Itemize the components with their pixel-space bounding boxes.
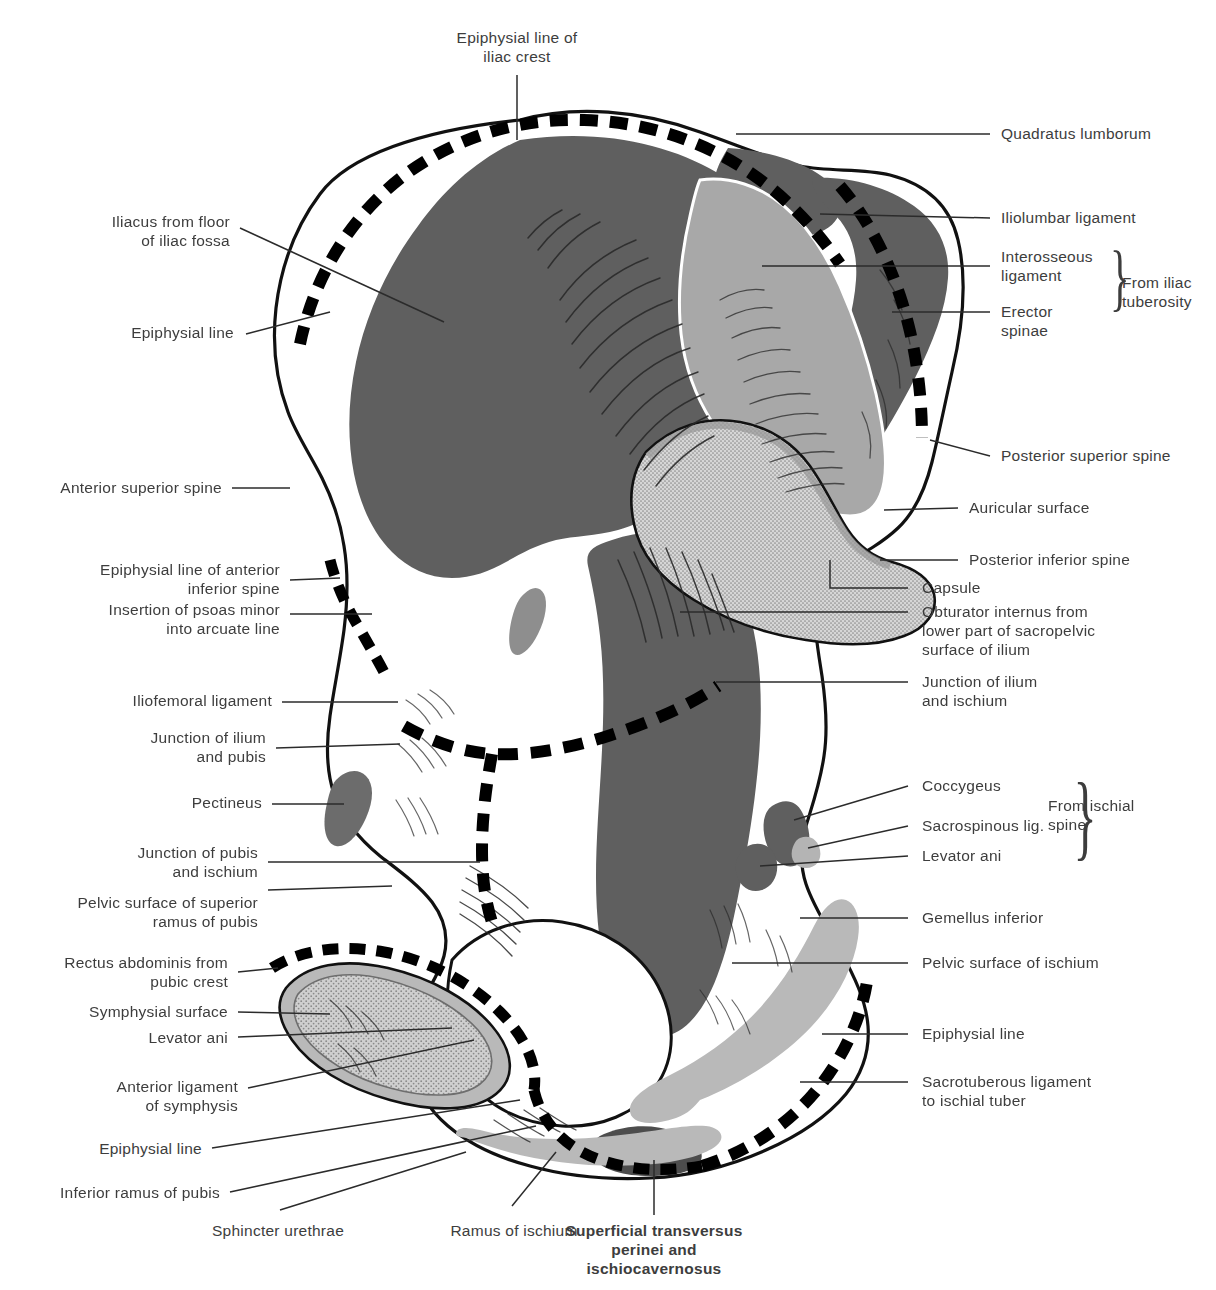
label-from-iliac-tuberosity: From iliac tuberosity: [1122, 273, 1216, 311]
label-epiphysial-line-of-anterior-inferior-spine: Epiphysial line of anterior inferior spi…: [48, 560, 280, 598]
label-junction-of-pubis-and-ischium: Junction of pubis and ischium: [52, 843, 258, 881]
label-pelvic-surface-of-ischium: Pelvic surface of ischium: [922, 953, 1152, 972]
label-interosseous-ligament: Interosseous ligament: [1001, 247, 1113, 285]
label-iliofemoral-ligament: Iliofemoral ligament: [60, 691, 272, 710]
leader-rectus-abdominis: [238, 968, 278, 972]
label-epiphysial-line-upper: Epiphysial line: [40, 323, 234, 342]
label-anterior-superior-spine: Anterior superior spine: [20, 478, 222, 497]
label-auricular-surface: Auricular surface: [969, 498, 1184, 517]
label-levator-ani-left: Levator ani: [26, 1028, 228, 1047]
label-epiphysial-line-of-iliac-crest: Epiphysial line of iliac crest: [417, 28, 617, 66]
label-junction-of-ilium-and-pubis: Junction of ilium and pubis: [60, 728, 266, 766]
label-pectineus: Pectineus: [60, 793, 262, 812]
label-epiphysial-line-lower-right: Epiphysial line: [922, 1024, 1137, 1043]
label-sacrotuberous-ligament: Sacrotuberous ligament to ischial tuber: [922, 1072, 1162, 1110]
leader-epiphysial-line-ais: [290, 578, 340, 580]
label-posterior-inferior-spine: Posterior inferior spine: [969, 550, 1194, 569]
label-anterior-ligament-of-symphysis: Anterior ligament of symphysis: [38, 1077, 238, 1115]
label-pelvic-surface-of-superior-ramus-of-pubis: Pelvic surface of superior ramus of pubi…: [28, 893, 258, 931]
label-sphincter-urethrae: Sphincter urethrae: [168, 1221, 388, 1240]
label-superficial-transversus-perinei: Superficial transversus perinei and isch…: [534, 1221, 774, 1278]
leader-posterior-superior-spine: [930, 440, 990, 456]
label-insertion-of-psoas-minor-into-arcuate-line: Insertion of psoas minor into arcuate li…: [48, 600, 280, 638]
label-epiphysial-line-lower-left: Epiphysial line: [0, 1139, 202, 1158]
label-rectus-abdominis-from-pubic-crest: Rectus abdominis from pubic crest: [16, 953, 228, 991]
label-symphysial-surface: Symphysial surface: [26, 1002, 228, 1021]
leader-inferior-ramus-pubis: [230, 1126, 536, 1192]
label-posterior-superior-spine: Posterior superior spine: [1001, 446, 1216, 465]
levator-ani-right-area: [736, 844, 778, 891]
leader-pelvic-surface-superior-ramus: [268, 886, 392, 890]
label-iliacus-from-floor-of-iliac-fossa: Iliacus from floor of iliac fossa: [30, 212, 230, 250]
label-capsule: Capsule: [922, 578, 1122, 597]
label-iliolumbar-ligament: Iliolumbar ligament: [1001, 208, 1216, 227]
label-gemellus-inferior: Gemellus inferior: [922, 908, 1137, 927]
label-from-ischial-spine: From ischial spine: [1048, 796, 1158, 834]
label-quadratus-lumborum: Quadratus lumborum: [1001, 124, 1216, 143]
label-obturator-internus: Obturator internus from lower part of sa…: [922, 602, 1172, 659]
label-inferior-ramus-of-pubis: Inferior ramus of pubis: [0, 1183, 220, 1202]
label-junction-of-ilium-and-ischium: Junction of ilium and ischium: [922, 672, 1132, 710]
anatomical-figure-page: Epiphysial line of iliac crest Iliacus f…: [0, 0, 1216, 1290]
leader-sacrospinous-lig: [808, 826, 908, 848]
label-erector-spinae: Erector spinae: [1001, 302, 1113, 340]
